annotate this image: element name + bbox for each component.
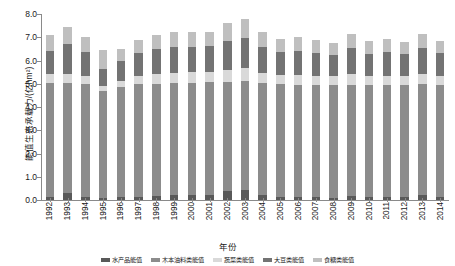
bar-column[interactable] <box>46 35 55 200</box>
bar-segment[interactable] <box>312 53 321 76</box>
bar-column[interactable] <box>223 23 232 200</box>
bar-segment[interactable] <box>258 32 267 46</box>
bar-column[interactable] <box>117 49 126 200</box>
bar-segment[interactable] <box>46 74 55 83</box>
bar-segment[interactable] <box>223 23 232 40</box>
bar-segment[interactable] <box>46 35 55 51</box>
bar-segment[interactable] <box>312 85 321 197</box>
bar-segment[interactable] <box>329 76 338 84</box>
bar-column[interactable] <box>170 32 179 200</box>
bar-segment[interactable] <box>81 52 90 77</box>
bar-column[interactable] <box>134 40 143 200</box>
bar-segment[interactable] <box>347 74 356 84</box>
bar-segment[interactable] <box>46 51 55 75</box>
bar-segment[interactable] <box>223 70 232 82</box>
bar-segment[interactable] <box>365 85 374 197</box>
bar-segment[interactable] <box>276 75 285 84</box>
bar-segment[interactable] <box>117 81 126 88</box>
bar-segment[interactable] <box>117 61 126 81</box>
bar-segment[interactable] <box>383 39 392 52</box>
bar-segment[interactable] <box>134 76 143 84</box>
bar-segment[interactable] <box>188 47 197 73</box>
bar-column[interactable] <box>418 34 427 200</box>
bar-segment[interactable] <box>241 38 250 68</box>
bar-segment[interactable] <box>99 86 108 91</box>
bar-segment[interactable] <box>329 43 338 55</box>
bar-segment[interactable] <box>383 76 392 85</box>
bar-segment[interactable] <box>241 19 250 38</box>
bar-segment[interactable] <box>400 42 409 54</box>
bar-segment[interactable] <box>258 83 267 195</box>
bar-segment[interactable] <box>312 40 321 53</box>
bar-segment[interactable] <box>188 83 197 195</box>
bar-segment[interactable] <box>436 53 445 76</box>
bar-segment[interactable] <box>46 83 55 197</box>
bar-segment[interactable] <box>294 37 303 51</box>
bar-segment[interactable] <box>81 84 90 197</box>
bar-segment[interactable] <box>258 47 267 73</box>
bar-segment[interactable] <box>223 82 232 191</box>
bar-segment[interactable] <box>436 41 445 54</box>
bar-column[interactable] <box>276 39 285 200</box>
bar-segment[interactable] <box>312 76 321 85</box>
legend-item[interactable]: 大豆类能值 <box>263 255 304 264</box>
bar-column[interactable] <box>347 34 356 200</box>
bar-segment[interactable] <box>294 85 303 197</box>
bar-column[interactable] <box>188 32 197 200</box>
bar-segment[interactable] <box>436 85 445 197</box>
bar-segment[interactable] <box>170 83 179 195</box>
bar-segment[interactable] <box>294 75 303 85</box>
bar-segment[interactable] <box>205 32 214 46</box>
bar-segment[interactable] <box>134 84 143 197</box>
bar-segment[interactable] <box>81 76 90 84</box>
bar-segment[interactable] <box>276 52 285 75</box>
bar-segment[interactable] <box>418 34 427 48</box>
bar-segment[interactable] <box>63 44 72 73</box>
bar-segment[interactable] <box>241 68 250 81</box>
bar-segment[interactable] <box>329 55 338 76</box>
bar-segment[interactable] <box>99 69 108 86</box>
bar-segment[interactable] <box>347 48 356 74</box>
bar-segment[interactable] <box>99 91 108 197</box>
bar-segment[interactable] <box>188 32 197 46</box>
bar-segment[interactable] <box>134 40 143 53</box>
bar-segment[interactable] <box>117 49 126 61</box>
legend-item[interactable]: 水产品能值 <box>101 255 142 264</box>
bar-segment[interactable] <box>365 76 374 85</box>
bar-segment[interactable] <box>170 73 179 83</box>
bar-segment[interactable] <box>436 76 445 85</box>
legend-item[interactable]: 蔬菜类能值 <box>213 255 254 264</box>
bar-column[interactable] <box>329 43 338 200</box>
bar-segment[interactable] <box>241 81 250 190</box>
bar-column[interactable] <box>99 50 108 200</box>
bar-segment[interactable] <box>205 46 214 72</box>
bar-segment[interactable] <box>205 72 214 83</box>
bar-segment[interactable] <box>170 32 179 47</box>
bar-segment[interactable] <box>170 47 179 73</box>
bar-segment[interactable] <box>294 51 303 75</box>
bar-column[interactable] <box>81 37 90 200</box>
bar-column[interactable] <box>63 27 72 200</box>
bar-segment[interactable] <box>63 83 72 193</box>
bar-segment[interactable] <box>81 37 90 51</box>
bar-segment[interactable] <box>418 48 427 74</box>
legend-item[interactable]: 食糖类能值 <box>313 255 354 264</box>
bar-segment[interactable] <box>117 87 126 197</box>
bar-column[interactable] <box>294 37 303 200</box>
bar-segment[interactable] <box>188 72 197 83</box>
bar-segment[interactable] <box>383 52 392 76</box>
bar-column[interactable] <box>258 32 267 200</box>
bar-column[interactable] <box>383 39 392 200</box>
bar-column[interactable] <box>152 35 161 200</box>
bar-column[interactable] <box>436 41 445 200</box>
bar-segment[interactable] <box>418 74 427 84</box>
legend-item[interactable]: 木本油料类能值 <box>151 255 204 264</box>
bar-segment[interactable] <box>258 73 267 84</box>
bar-segment[interactable] <box>99 50 108 69</box>
bar-segment[interactable] <box>400 76 409 84</box>
bar-segment[interactable] <box>347 34 356 48</box>
bar-column[interactable] <box>365 41 374 200</box>
bar-column[interactable] <box>312 40 321 200</box>
bar-segment[interactable] <box>400 54 409 76</box>
bar-segment[interactable] <box>223 41 232 70</box>
